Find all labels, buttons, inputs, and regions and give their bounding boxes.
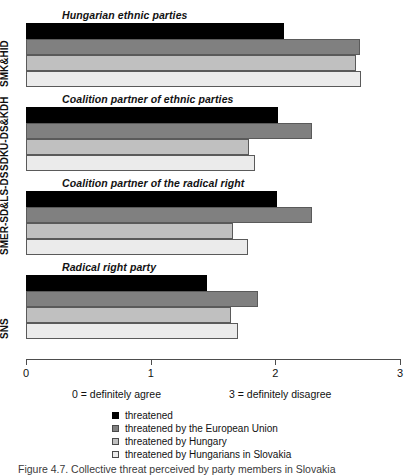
bar [26,239,248,255]
bar [26,39,360,55]
bar [26,123,312,139]
bar [26,139,249,155]
axis-note-left: 0 = definitely agree [72,388,161,400]
x-axis-tick-label: 1 [148,367,154,379]
legend-item: threatened [112,410,291,422]
bar [26,55,356,71]
x-axis-tick [275,359,276,365]
bar [26,307,231,323]
legend-label: threatened by Hungary [125,436,227,447]
category-label: SMER-SD&LS-DS [0,172,10,255]
bar [26,275,207,291]
bar [26,155,255,171]
bar-group-title: Hungarian ethnic parties [62,9,188,21]
bar-group-title: Radical right party [62,261,156,273]
bar-group-title: Coalition partner of the radical right [62,177,244,189]
plot-area: Hungarian ethnic partiesSMK&HIDCoalition… [0,0,414,350]
legend-label: threatened by the European Union [125,423,278,434]
x-axis-tick [151,359,152,365]
figure-caption: Figure 4.7. Collective threat perceived … [18,463,414,475]
legend: threatenedthreatened by the European Uni… [112,410,291,462]
legend-label: threatened [125,410,173,421]
category-label: SDKU-DS&KDH [0,97,10,171]
legend-swatch-icon [112,438,119,445]
bar [26,323,238,339]
bar [26,191,277,207]
x-axis-tick-label: 0 [23,367,29,379]
category-label: SMK&HID [0,40,10,87]
bar [26,107,278,123]
x-axis-tick [26,359,27,365]
legend-item: threatened by Hungary [112,436,291,448]
legend-swatch-icon [112,412,119,419]
legend-swatch-icon [112,451,119,458]
axis-note-right: 3 = definitely disagree [229,388,331,400]
legend-item: threatened by the European Union [112,423,291,435]
bar [26,71,361,87]
x-axis-tick [400,359,401,365]
bar [26,223,233,239]
legend-label: threatened by Hungarians in Slovakia [125,449,291,460]
category-label: SNS [0,318,10,339]
bar [26,23,284,39]
legend-swatch-icon [112,425,119,432]
x-axis-line [26,359,400,360]
bar-group-title: Coalition partner of ethnic parties [62,93,234,105]
legend-item: threatened by Hungarians in Slovakia [112,449,291,461]
x-axis-tick-label: 3 [397,367,403,379]
x-axis-tick-label: 2 [272,367,278,379]
bar [26,207,312,223]
bar [26,291,258,307]
